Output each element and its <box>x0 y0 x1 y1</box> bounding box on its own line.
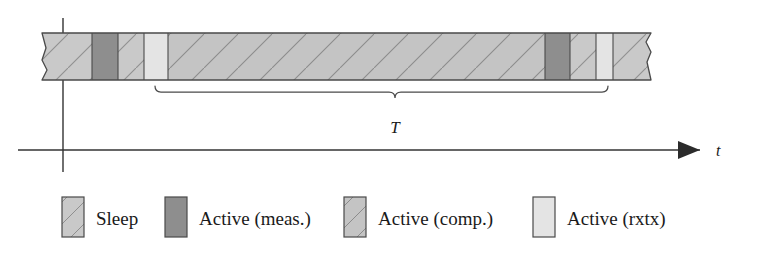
segment-sleep <box>613 33 658 80</box>
segment-sleep <box>570 33 596 80</box>
segment-comp <box>168 33 545 80</box>
legend: Sleep Active (meas.) Active (comp.) Acti… <box>62 197 666 237</box>
segment-rxtx <box>596 33 613 80</box>
legend-swatch-sleep <box>62 197 84 237</box>
legend-item-meas: Active (meas.) <box>165 197 311 237</box>
legend-swatch-rxtx <box>533 197 555 237</box>
legend-label-rxtx: Active (rxtx) <box>567 208 666 230</box>
timeline-bar <box>36 33 658 80</box>
figure-duty-cycle-timeline: T t Sleep Active (meas.) Active (comp.) … <box>0 0 760 267</box>
legend-label-meas: Active (meas.) <box>199 208 311 230</box>
legend-item-sleep: Sleep <box>62 197 138 237</box>
legend-label-comp: Active (comp.) <box>378 208 493 230</box>
axis-arrowhead-icon <box>678 141 700 159</box>
segment-meas <box>545 33 570 80</box>
period-brace <box>155 86 608 98</box>
period-label-T: T <box>390 118 401 137</box>
timeline-svg: T t Sleep Active (meas.) Active (comp.) … <box>0 0 760 267</box>
time-axis-label-t: t <box>716 142 721 159</box>
legend-label-sleep: Sleep <box>96 208 138 229</box>
legend-swatch-meas <box>165 197 187 237</box>
segment-rxtx <box>144 33 168 80</box>
segment-meas <box>92 33 118 80</box>
legend-item-rxtx: Active (rxtx) <box>533 197 666 237</box>
legend-item-comp: Active (comp.) <box>344 197 493 237</box>
legend-swatch-comp <box>344 197 366 237</box>
segment-sleep <box>118 33 144 80</box>
